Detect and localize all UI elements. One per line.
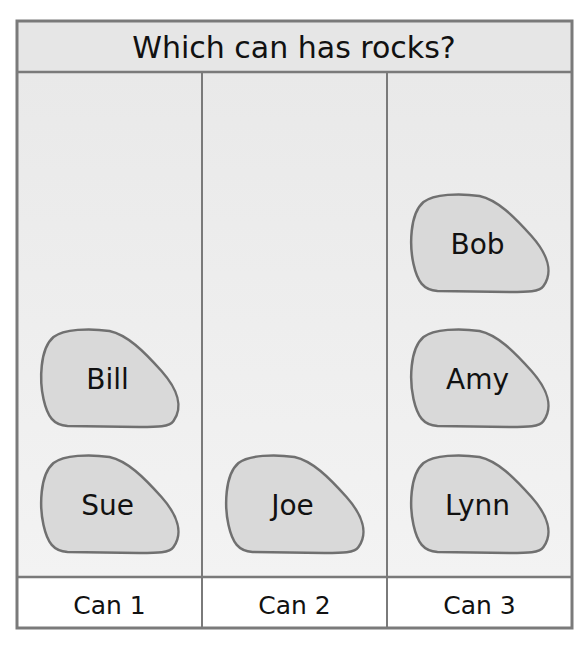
rock-label: Bob: [450, 228, 504, 261]
rock-label: Lynn: [445, 489, 510, 522]
chart-title: Which can has rocks?: [132, 30, 456, 65]
category-label: Can 2: [258, 591, 330, 620]
category-label: Can 1: [73, 591, 145, 620]
rock-label: Bill: [86, 363, 129, 396]
rock-label: Joe: [269, 489, 314, 522]
pictograph-chart: Which can has rocks? Can 1SueBillCan 2Jo…: [0, 0, 585, 646]
rock-label: Amy: [446, 363, 509, 396]
rock-label: Sue: [81, 489, 134, 522]
category-label: Can 3: [443, 591, 515, 620]
